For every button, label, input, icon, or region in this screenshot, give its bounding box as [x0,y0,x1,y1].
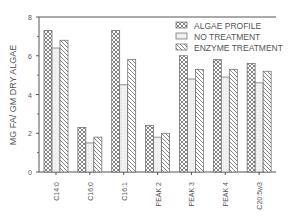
bar [263,71,271,172]
x-tick-label: C16:0 [87,182,94,201]
legend-label: ENZYME TREATMENT [194,43,283,53]
bar [128,60,136,172]
y-axis-label: MG FA/ GM DRY ALGAE [8,45,18,146]
bar [255,83,263,172]
bar [52,48,60,172]
x-tick-label: PEAK 3 [188,182,195,207]
x-tick-label: C20:5w3 [256,182,263,210]
x-tick-labels: C14:0C16:0C16:1PEAK 2PEAK 3PEAK 4C20:5w3 [53,172,263,210]
bar [94,137,102,172]
x-tick-label: C16:1 [121,182,128,201]
bar [162,133,170,172]
x-tick-label: PEAK 4 [222,182,229,207]
bar [60,40,68,172]
svg-text:MG FA/ GM DRY ALGAE: MG FA/ GM DRY ALGAE [8,45,18,146]
legend-label: ALGAE PROFILE [194,21,261,31]
y-tick-label: 4 [28,92,32,99]
bar [112,31,120,172]
y-tick-label: 2 [28,130,32,137]
legend-label: NO TREATMENT [194,32,260,42]
y-tick-label: 8 [28,14,32,21]
bar [120,85,128,172]
x-tick-label: PEAK 2 [155,182,162,207]
bar [213,60,221,172]
bar [195,69,203,172]
x-tick-label: C14:0 [53,182,60,201]
legend-swatch [176,22,187,28]
y-tick-label: 6 [28,53,32,60]
bar [187,79,195,172]
legend: ALGAE PROFILENO TREATMENTENZYME TREATMEN… [176,21,283,53]
bar [44,31,52,172]
legend-swatch [176,33,187,39]
bar [247,64,255,173]
bar [154,137,162,172]
bar [78,127,86,172]
bar [221,77,229,172]
bar [146,126,154,173]
bar-chart: MG FA/ GM DRY ALGAE 02468 C14:0C16:0C16:… [0,0,290,222]
bar [229,69,237,172]
bar [179,56,187,172]
bar [86,143,94,172]
y-tick-label: 0 [28,169,32,176]
legend-swatch [176,44,187,50]
